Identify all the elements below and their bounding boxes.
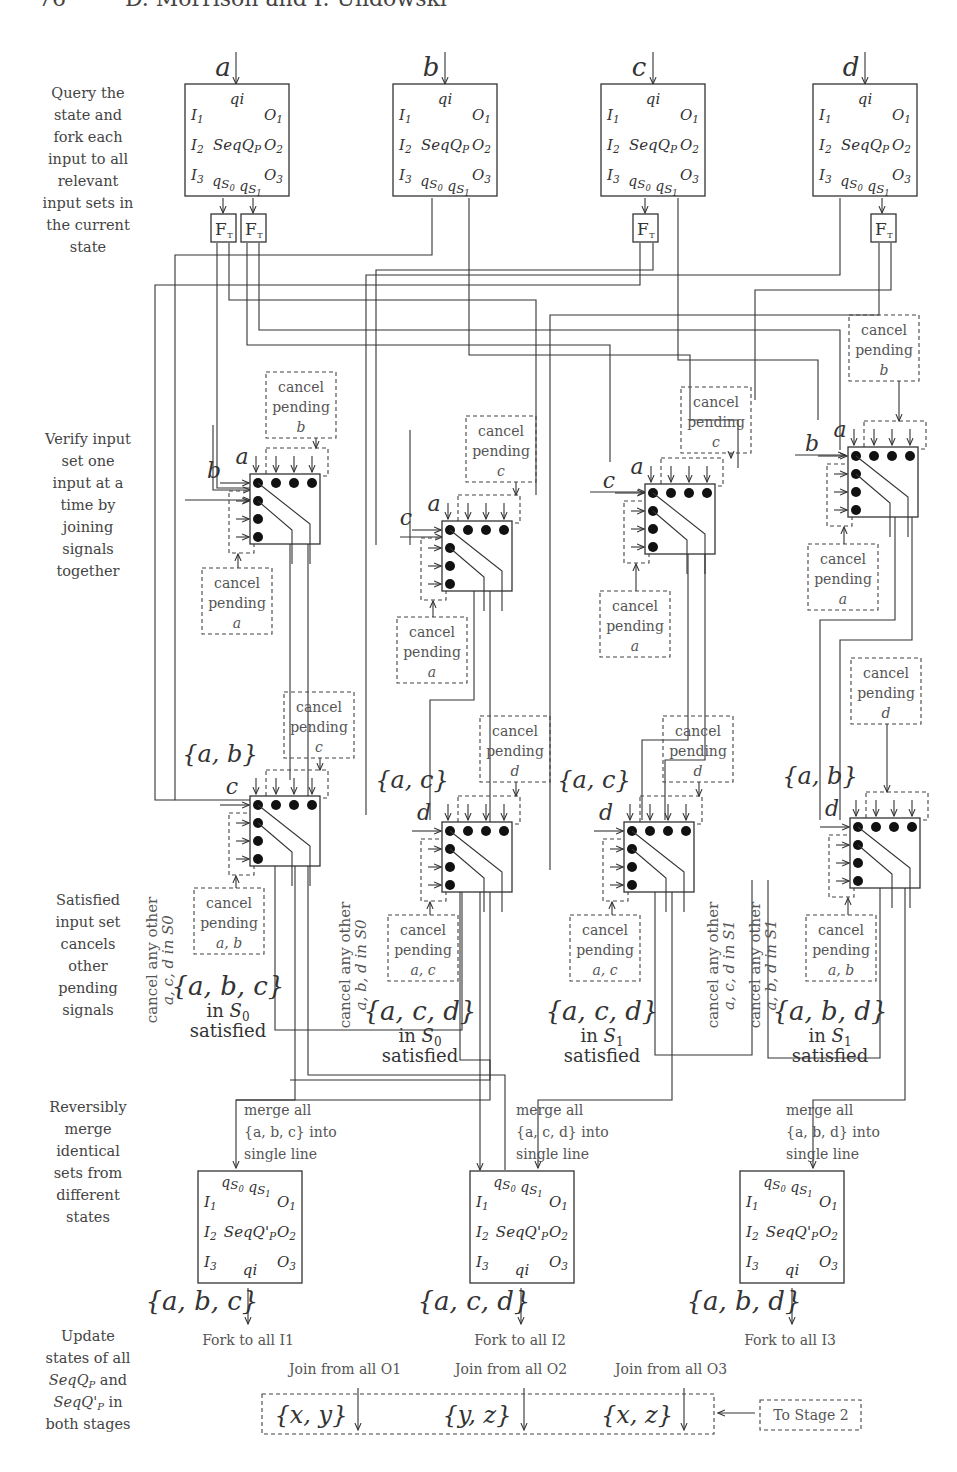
cancel-any-other-label: cancel any othera, c, d in S1	[704, 901, 738, 1028]
satisfied-word: satisfied	[792, 1045, 868, 1066]
cancel-text: cancel	[820, 551, 866, 567]
cancel-text: cancel	[693, 394, 739, 410]
fork-to-all-label: Fork to all I1	[202, 1332, 294, 1348]
stage-description-line: Satisfied	[56, 892, 120, 908]
left-input-label: b	[805, 431, 819, 456]
cancel-pending-top: cancelpendingd	[663, 716, 733, 782]
fork-tick-gate: FT	[241, 214, 266, 242]
left-input-label: b	[207, 458, 221, 483]
partial-set-label: {a, c}	[557, 766, 631, 794]
seq-q-prime-block-3: qS0 qS1qiI1I2I3O1O2O3SeqQ'P	[740, 1171, 844, 1283]
seq-q-prime-block-2: qS0 qS1qiI1I2I3O1O2O3SeqQ'P	[470, 1171, 574, 1283]
cancel-any-line2: a, b, d in S0	[352, 919, 370, 1010]
stage-description-line: time by	[61, 497, 117, 513]
stage-description-line: state and	[54, 107, 122, 123]
merged-set-label: {a, c, d}	[418, 1286, 531, 1316]
cancel-pending-bottom: cancelpendinga, c	[388, 915, 458, 981]
pending-text: pending	[606, 618, 664, 634]
pending-signal: a	[631, 638, 639, 654]
cancel-text: cancel	[409, 624, 455, 640]
top-input-label: a	[833, 417, 846, 442]
pending-text: pending	[576, 942, 634, 958]
stage-description-line: SeqQ'P in	[54, 1394, 123, 1412]
left-input-label: c	[400, 505, 412, 530]
input-signal-a: a	[215, 52, 231, 82]
left-input-label: d	[825, 796, 839, 821]
stage-description-line: states of all	[46, 1350, 131, 1366]
qi-label: qi	[230, 90, 245, 108]
stage-description-line: SeqQP and	[49, 1372, 127, 1390]
stage-description-line: set one	[61, 453, 114, 469]
merge-note-line: merge all	[244, 1102, 312, 1118]
partial-set-label: {a, c}	[375, 766, 449, 794]
cancel-pending-bottom: cancelpendinga	[397, 617, 467, 683]
partial-set-label: {a, b}	[782, 762, 857, 790]
satisfied-word: satisfied	[564, 1045, 640, 1066]
satisfied-set: {a, b, d}	[773, 996, 888, 1026]
svg-text:T: T	[887, 231, 893, 240]
stage-description-line: Update	[61, 1328, 115, 1344]
left-input-label: d	[417, 800, 431, 825]
join-row-2: {a, b}ccancelpendingccancelpendinga, b{a…	[182, 658, 928, 981]
seq-q-prime-block-1: qS0 qS1qiI1I2I3O1O2O3SeqQ'P	[198, 1171, 302, 1283]
stage-description-line: Reversibly	[49, 1099, 127, 1115]
stage-description-line: identical	[56, 1143, 120, 1159]
pending-signal: a	[428, 664, 436, 680]
merge-blocks: merge all{a, b, c} intosingle lineqS0 qS…	[146, 1102, 880, 1348]
circuit-diagram: Query thestate andfork eachinput to allr…	[0, 0, 957, 1472]
satisfied-set: {a, b, c}	[172, 971, 285, 1001]
svg-text:F: F	[215, 219, 227, 239]
stage-description-line: input at a	[53, 475, 124, 491]
pending-text: pending	[855, 342, 913, 358]
qi-label: qi	[785, 1261, 800, 1279]
cancel-any-other-label: cancel any othera, c, d in S0	[143, 896, 177, 1023]
pending-text: pending	[814, 571, 872, 587]
stage-description-line: input to all	[48, 151, 128, 167]
cancel-text: cancel	[612, 598, 658, 614]
join-from-label: Join from all O1	[287, 1361, 401, 1377]
qi-label: qi	[243, 1261, 258, 1279]
pending-signal: a, c	[592, 962, 617, 978]
stage-description-line: other	[68, 958, 107, 974]
merge-note-line: {a, b, d} into	[786, 1124, 880, 1140]
cancel-text: cancel	[818, 922, 864, 938]
stage-description-line: both stages	[45, 1416, 130, 1432]
cancel-text: cancel	[861, 322, 907, 338]
merge-note-line: merge all	[786, 1102, 854, 1118]
merge-note-line: {a, b, c} into	[244, 1124, 337, 1140]
to-stage-2-label: To Stage 2	[773, 1407, 848, 1423]
cancel-pending-bottom: cancelpendinga	[808, 544, 878, 610]
fork-tick-gate: FT	[871, 214, 896, 242]
join-set-label: {x, z}	[601, 1401, 673, 1429]
join-set-label: {y, z}	[443, 1401, 512, 1429]
stage-description-line: states	[66, 1209, 110, 1225]
cancel-text: cancel	[582, 922, 628, 938]
stage-descriptions: Query thestate andfork eachinput to allr…	[43, 85, 134, 1432]
stage-description-line: cancels	[61, 936, 116, 952]
pending-text: pending	[208, 595, 266, 611]
cancel-text: cancel	[478, 423, 524, 439]
merged-set-label: {a, b, d}	[687, 1286, 802, 1316]
pending-signal: d	[511, 763, 520, 779]
satisfied-set: {a, c, d}	[546, 996, 659, 1026]
join-output-bus: Join from all O1{x, y}Join from all O2{y…	[262, 1361, 861, 1434]
cancel-pending-bottom: cancelpendinga, b	[194, 888, 264, 954]
input-signal-d: d	[843, 52, 860, 82]
join-set-label: {x, y}	[275, 1401, 348, 1429]
seq-q-p-block-a: qiqS0 qS1I1I2I3O1O2O3SeqQP	[185, 84, 289, 198]
merge-note-line: {a, c, d} into	[516, 1124, 609, 1140]
fork-to-all-label: Fork to all I3	[744, 1332, 836, 1348]
input-signal-b: b	[423, 52, 440, 82]
pending-text: pending	[472, 443, 530, 459]
cancel-text: cancel	[492, 723, 538, 739]
top-input-label: a	[235, 444, 248, 469]
pending-signal: d	[882, 705, 891, 721]
left-input-label: c	[226, 774, 238, 799]
stage-description-line: signals	[62, 541, 113, 557]
stage-description-line: pending	[58, 980, 118, 996]
pending-text: pending	[687, 414, 745, 430]
fork-tick-gate: FT	[633, 214, 658, 242]
left-input-label: c	[603, 468, 615, 493]
pending-text: pending	[403, 644, 461, 660]
cancel-text: cancel	[206, 895, 252, 911]
